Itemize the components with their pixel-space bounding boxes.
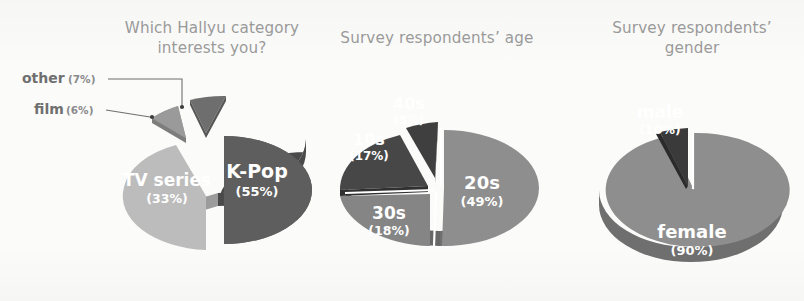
pie2-value-30s: (18%)	[368, 223, 409, 238]
chart-title-line2: interests you?	[157, 39, 266, 57]
infographic-page: Which Hallyu category interests you?	[0, 0, 804, 301]
pie-charts-figure: Which Hallyu category interests you?	[0, 0, 804, 301]
pie2-label-30s: 30s	[372, 203, 406, 223]
pie1-callout-film: film (6%)	[34, 101, 154, 119]
chart2-title-line1: Survey respondents’ age	[340, 29, 533, 47]
pie1-value-tvseries: (33%)	[146, 191, 187, 206]
pie1-label-film: film	[34, 101, 64, 117]
pie2-value-20s: (49%)	[461, 194, 504, 209]
chart-respondents-age: Survey respondents’ age	[340, 29, 539, 246]
pie3-label-male: male	[637, 102, 684, 122]
pie2-value-40s: (8%)	[394, 113, 424, 127]
pie1-slice-film[interactable]	[152, 106, 186, 143]
pie2-label-40s: 40s	[393, 94, 425, 113]
pie1-leader-dot-film	[150, 115, 154, 119]
pie1-value-film: (6%)	[66, 104, 93, 116]
pie1-label-tvseries: TV series	[123, 170, 211, 190]
pie1-label-kpop: K-Pop	[226, 160, 288, 182]
pie3-value-female: (90%)	[671, 243, 714, 258]
chart-hallyu-category: Which Hallyu category interests you?	[22, 19, 312, 250]
pie1-value-kpop: (55%)	[236, 184, 279, 199]
pie1-leader-dot-other	[180, 105, 184, 109]
pie2-value-10s: (17%)	[349, 149, 389, 163]
pie1-slice-other[interactable]	[190, 96, 226, 138]
chart3-title-line2: gender	[665, 39, 720, 57]
pie1-value-other: (7%)	[68, 73, 95, 85]
chart-title-line1: Which Hallyu category	[125, 19, 300, 37]
pie1-label-other: other	[22, 70, 65, 86]
chart-respondents-gender: Survey respondents’ gender female (90%) …	[599, 19, 790, 262]
pie2-label-10s: 10s	[353, 130, 385, 149]
chart3-title-line1: Survey respondents’	[612, 19, 772, 37]
pie3-label-female: female	[657, 221, 726, 242]
pie2-label-20s: 20s	[464, 172, 500, 193]
pie3-value-male: (10%)	[639, 122, 680, 137]
